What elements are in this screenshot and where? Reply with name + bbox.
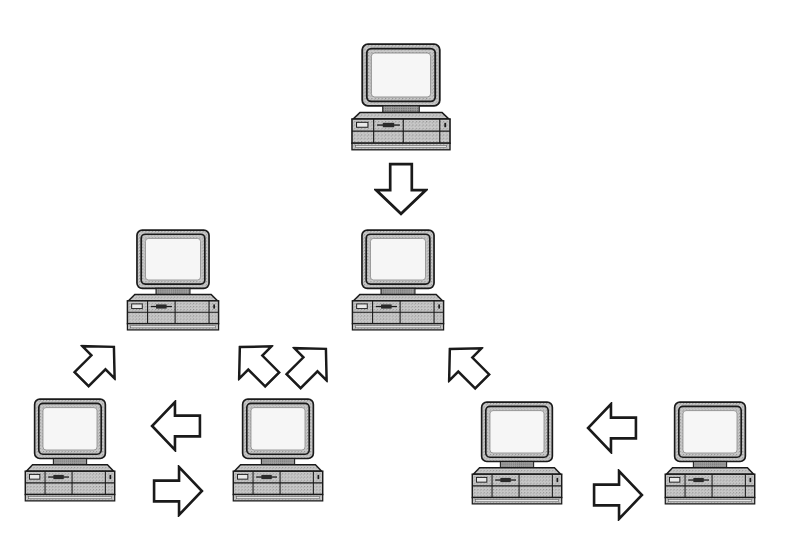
computer-icon-bottom-2 xyxy=(226,397,330,503)
computer-icon-mid-center xyxy=(345,228,451,332)
arrow-up-left-icon xyxy=(228,336,284,390)
computer-icon-bottom-3 xyxy=(465,400,569,506)
computer-icon-bottom-4 xyxy=(658,400,762,506)
arrow-right-icon xyxy=(152,464,204,518)
network-diagram: hierarchical-network xyxy=(0,0,798,547)
arrow-right-icon xyxy=(592,468,644,522)
arrow-up-right-icon xyxy=(282,338,338,392)
arrow-left-icon xyxy=(586,402,638,454)
arrow-up-left-icon xyxy=(438,338,494,392)
computer-icon-top xyxy=(344,42,458,152)
arrow-left-icon xyxy=(150,400,202,452)
computer-icon-mid-left xyxy=(120,228,226,332)
arrow-up-right-icon xyxy=(70,336,126,390)
arrow-down-icon xyxy=(372,162,430,216)
computer-icon-bottom-1 xyxy=(18,397,122,503)
